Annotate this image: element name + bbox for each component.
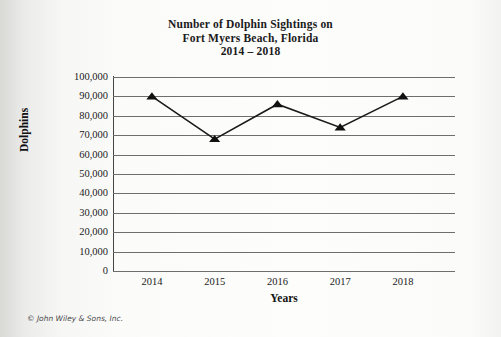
y-axis-title: Dolphins <box>18 108 30 152</box>
gridline <box>113 271 455 272</box>
chart-title: Number of Dolphin Sightings on Fort Myer… <box>0 18 501 59</box>
x-tick-label: 2017 <box>330 276 351 287</box>
y-tick-label: 0 <box>50 266 108 276</box>
gridline <box>113 116 455 117</box>
y-axis-tick-labels: 100,00090,00080,00070,00060,00050,00040,… <box>46 77 108 271</box>
y-tick-label: 100,000 <box>50 72 108 82</box>
copyright-credit: © John Wiley & Sons, Inc. <box>27 314 123 323</box>
gridline <box>113 96 455 97</box>
x-tick-label: 2015 <box>204 276 225 287</box>
chart-page: Number of Dolphin Sightings on Fort Myer… <box>0 0 501 337</box>
y-tick-label: 80,000 <box>50 111 108 121</box>
y-tick-label: 20,000 <box>50 227 108 237</box>
y-tick-label: 60,000 <box>50 150 108 160</box>
gridline <box>113 232 455 233</box>
gridline <box>113 77 455 78</box>
y-tick-label: 90,000 <box>50 91 108 101</box>
x-tick-label: 2016 <box>267 276 288 287</box>
chart-title-line-3: 2014 – 2018 <box>0 45 501 59</box>
gridline <box>113 155 455 156</box>
gridline <box>113 174 455 175</box>
y-tick-label: 70,000 <box>50 130 108 140</box>
x-axis-tick-labels: 20142015201620172018 <box>113 276 455 292</box>
y-tick-label: 10,000 <box>50 247 108 257</box>
x-axis-title: Years <box>113 292 455 304</box>
chart-title-line-2: Fort Myers Beach, Florida <box>0 32 501 46</box>
gridline <box>113 135 455 136</box>
x-tick-label: 2018 <box>392 276 413 287</box>
gridline <box>113 213 455 214</box>
gridline <box>113 252 455 253</box>
gridline <box>113 193 455 194</box>
chart-title-line-1: Number of Dolphin Sightings on <box>0 18 501 32</box>
plot-area <box>113 77 455 271</box>
y-tick-label: 50,000 <box>50 169 108 179</box>
y-tick-label: 30,000 <box>50 208 108 218</box>
y-tick-label: 40,000 <box>50 188 108 198</box>
x-tick-label: 2014 <box>141 276 162 287</box>
